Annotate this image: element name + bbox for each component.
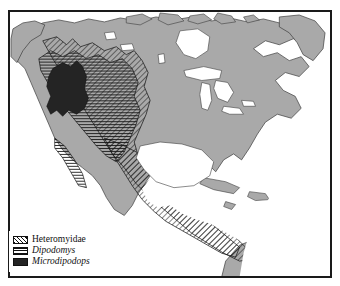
range-microdipodops [47,61,89,117]
legend-item-dipodomys: Dipodomys [13,245,113,256]
lake-winnipeg [158,54,165,64]
lake-ontario [242,100,256,106]
legend-label-dipodomys: Dipodomys [32,245,75,256]
legend-swatch-heteromyidae [13,236,28,244]
legend-item-microdipodops: Microdipodops [13,256,113,267]
legend-swatch-dipodomys [13,247,28,255]
legend-label-heteromyidae: Heteromyidae [32,234,86,245]
legend-label-microdipodops: Microdipodops [32,256,90,267]
legend-item-heteromyidae: Heteromyidae [13,234,113,245]
figure-root: Heteromyidae Dipodomys Microdipodops [0,0,340,286]
legend-swatch-microdipodops [13,258,28,266]
great-slave-lake [120,44,134,51]
great-bear-lake [104,32,116,40]
map-legend: Heteromyidae Dipodomys Microdipodops [9,231,113,272]
